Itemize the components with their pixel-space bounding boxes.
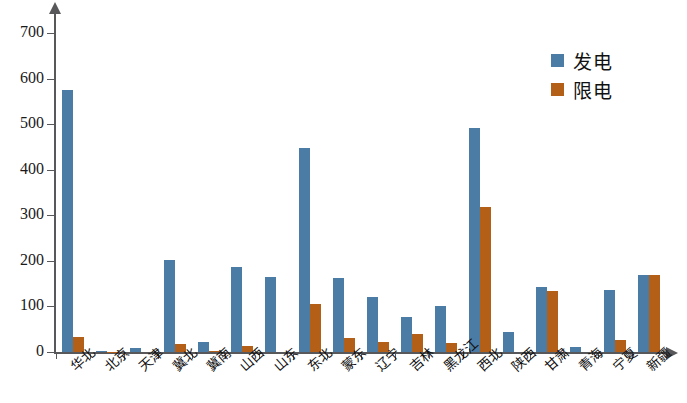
bar-group: [299, 18, 321, 352]
bar[interactable]: [638, 275, 649, 352]
y-axis-tick-label: 600: [2, 70, 44, 86]
y-axis-tick-label: 500: [2, 115, 44, 131]
y-axis-tick-label: 700: [2, 24, 44, 40]
blue-square-icon: [551, 54, 564, 67]
bar-group: [198, 18, 220, 352]
bar[interactable]: [130, 348, 141, 352]
bar-group: [62, 18, 84, 352]
bar-group: [435, 18, 457, 352]
bar[interactable]: [480, 207, 491, 352]
y-axis-tick: [47, 352, 55, 353]
bar[interactable]: [604, 290, 615, 352]
bar[interactable]: [231, 267, 242, 352]
bar-group: [130, 18, 152, 352]
y-axis-tick-label: 300: [2, 206, 44, 222]
y-axis-tick-label: 200: [2, 252, 44, 268]
bar-group: [367, 18, 389, 352]
legend-item[interactable]: 发电: [551, 46, 613, 75]
bar[interactable]: [198, 342, 209, 352]
bar[interactable]: [299, 148, 310, 352]
bar[interactable]: [469, 128, 480, 352]
bar[interactable]: [570, 347, 581, 352]
legend-item[interactable]: 限电: [551, 75, 613, 104]
bar-group: [503, 18, 525, 352]
y-axis-tick-label: 400: [2, 161, 44, 177]
bar-group: [401, 18, 423, 352]
bar-group: [265, 18, 287, 352]
bar[interactable]: [96, 351, 107, 352]
x-axis-tick: [56, 353, 57, 359]
bar-group: [469, 18, 491, 352]
bar[interactable]: [164, 260, 175, 352]
bar-group: [638, 18, 660, 352]
bar-group: [333, 18, 355, 352]
bar[interactable]: [536, 287, 547, 352]
bar[interactable]: [401, 317, 412, 352]
bar[interactable]: [435, 306, 446, 352]
bar-group: [231, 18, 253, 352]
legend: 发电 限电: [551, 46, 613, 104]
bar-group: [164, 18, 186, 352]
bar[interactable]: [649, 275, 660, 352]
bar[interactable]: [333, 278, 344, 352]
orange-square-icon: [551, 83, 564, 96]
legend-item-label: 限电: [573, 76, 613, 103]
legend-item-label: 发电: [573, 47, 613, 74]
bar[interactable]: [62, 90, 73, 352]
y-axis-tick-label: 0: [2, 343, 44, 359]
bar[interactable]: [503, 332, 514, 353]
bar-group: [96, 18, 118, 352]
bar-chart: 0100200300400500600700 华北北京天津冀北冀南山西山东东北蒙…: [0, 0, 687, 403]
bar[interactable]: [265, 277, 276, 352]
bar[interactable]: [367, 297, 378, 352]
arrow-up-icon: [49, 2, 61, 14]
y-axis-tick-label: 100: [2, 297, 44, 313]
